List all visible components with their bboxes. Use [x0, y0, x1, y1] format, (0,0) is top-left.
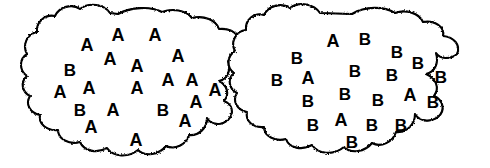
letter-b: B — [395, 117, 407, 134]
letter-b: B — [339, 86, 351, 103]
letter-b: B — [391, 44, 403, 61]
letter-b: B — [435, 69, 447, 86]
letter-b: B — [302, 93, 314, 110]
right-blob-letters: ABBBBABBBBBBBABBABBB — [0, 0, 490, 168]
letter-b: B — [412, 55, 424, 72]
letter-b: B — [271, 72, 283, 89]
letter-b: B — [366, 117, 378, 134]
letter-b: B — [349, 63, 361, 80]
letter-a: A — [302, 69, 315, 87]
letter-b: B — [372, 92, 384, 109]
figure-canvas: AAABAAAAAAAAABABAAAA ABBBBABBBBBBBABBABB… — [0, 0, 490, 168]
letter-a: A — [327, 32, 340, 50]
letter-a: A — [404, 86, 417, 104]
letter-a: A — [335, 111, 348, 129]
letter-b: B — [307, 117, 319, 134]
letter-b: B — [386, 67, 398, 84]
letter-b: B — [427, 94, 439, 111]
letter-b: B — [346, 134, 358, 151]
right-blob: ABBBBABBBBBBBABBABBB — [0, 0, 490, 168]
letter-b: B — [291, 50, 303, 67]
letter-b: B — [359, 31, 371, 48]
